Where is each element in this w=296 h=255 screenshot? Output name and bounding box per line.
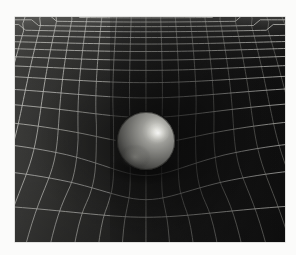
photo-border: A dark rectangular grid surface warped d… — [0, 0, 296, 255]
film-grain — [15, 17, 285, 242]
spacetime-scene — [15, 17, 285, 242]
photo-plate: A dark rectangular grid surface warped d… — [15, 17, 285, 242]
figure-root: A dark rectangular grid surface warped d… — [0, 0, 296, 255]
